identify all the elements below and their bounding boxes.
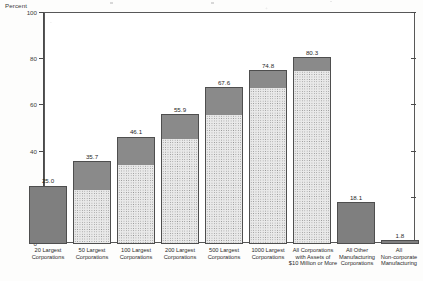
bar-segment-lower (294, 71, 330, 243)
bar-segment-lower (206, 115, 242, 243)
bar-segment-upper (382, 241, 418, 243)
bar-segment-upper (74, 162, 110, 190)
bar-segment-upper (250, 71, 286, 87)
bar-all-non-corporate-manufacturing (381, 240, 419, 244)
bar-segment-lower (162, 139, 198, 243)
bar-value-label: 67.6 (205, 79, 243, 86)
bar-500-largest (205, 87, 243, 244)
bar-1000-largest (249, 70, 287, 244)
bar-200-largest (161, 114, 199, 244)
bar-chart: Percent 100 80 60 40 20 0 25.0 35.7 (0, 0, 423, 281)
bar-segment-lower (118, 165, 154, 243)
bar-segment-lower (250, 88, 286, 243)
bar-50-largest (73, 161, 111, 244)
bar-all-other-manufacturing (337, 202, 375, 244)
bar-100-largest (117, 137, 155, 244)
bars-layer: 25.0 35.7 46.1 55.9 67.6 74.8 (0, 0, 423, 281)
bar-segment-lower (74, 190, 110, 243)
bar-20-largest (29, 186, 67, 245)
bar-value-label: 35.7 (73, 153, 111, 160)
bar-value-label: 18.1 (337, 194, 375, 201)
bar-segment-upper (118, 138, 154, 166)
bar-segment-upper (294, 58, 330, 71)
bar-all-corporations-10m (293, 57, 331, 244)
bar-value-label: 74.8 (249, 62, 287, 69)
bar-segment-upper (162, 115, 198, 139)
bar-segment-upper (206, 88, 242, 115)
x-axis-label-all-non-corporate-manufacturing: All Non-corporate Manufacturing (375, 247, 423, 267)
bar-value-label: 46.1 (117, 128, 155, 135)
bar-value-label: 55.9 (161, 106, 199, 113)
bar-value-label: 25.0 (29, 177, 67, 184)
bar-value-label: 1.8 (381, 232, 419, 239)
bar-value-label: 80.3 (293, 49, 331, 56)
bar-segment-upper (30, 187, 66, 244)
bar-segment-upper (338, 203, 374, 243)
